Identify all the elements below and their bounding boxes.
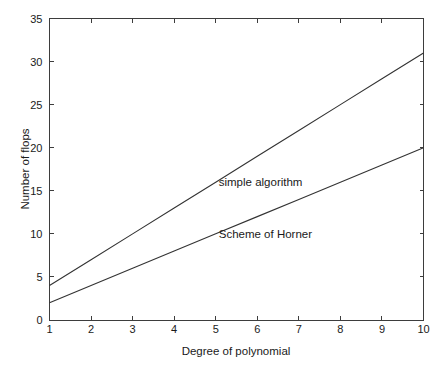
y-axis-title: Number of flops bbox=[19, 128, 31, 209]
y-tick-label: 15 bbox=[30, 185, 42, 197]
y-tick-label: 20 bbox=[30, 142, 42, 154]
y-tick-label: 10 bbox=[30, 228, 42, 240]
x-tick-label: 1 bbox=[46, 323, 52, 335]
y-axis-tick-labels: 05101520253035 bbox=[30, 13, 42, 327]
series-annotation-label: simple algorithm bbox=[219, 176, 303, 188]
x-tick-label: 2 bbox=[88, 323, 94, 335]
chart-figure: 12345678910 05101520253035 simple algori… bbox=[0, 0, 448, 365]
x-axis-tick-labels: 12345678910 bbox=[46, 323, 429, 335]
line-chart: 12345678910 05101520253035 simple algori… bbox=[0, 0, 448, 365]
y-tick-label: 5 bbox=[36, 271, 42, 283]
x-tick-label: 7 bbox=[296, 323, 302, 335]
series-line bbox=[50, 148, 424, 303]
y-tick-label: 25 bbox=[30, 99, 42, 111]
x-tick-label: 3 bbox=[130, 323, 136, 335]
x-tick-label: 8 bbox=[337, 323, 343, 335]
x-tick-label: 9 bbox=[379, 323, 385, 335]
x-tick-label: 10 bbox=[417, 323, 429, 335]
series-annotation-label: Scheme of Horner bbox=[219, 228, 312, 240]
y-tick-label: 30 bbox=[30, 56, 42, 68]
y-tick-label: 0 bbox=[36, 314, 42, 326]
x-tick-label: 4 bbox=[171, 323, 177, 335]
series-line bbox=[50, 53, 424, 286]
x-tick-label: 6 bbox=[254, 323, 260, 335]
series-annotations: simple algorithmScheme of Horner bbox=[219, 176, 312, 240]
x-axis-title: Degree of polynomial bbox=[182, 345, 291, 357]
x-tick-label: 5 bbox=[213, 323, 219, 335]
y-tick-label: 35 bbox=[30, 13, 42, 25]
